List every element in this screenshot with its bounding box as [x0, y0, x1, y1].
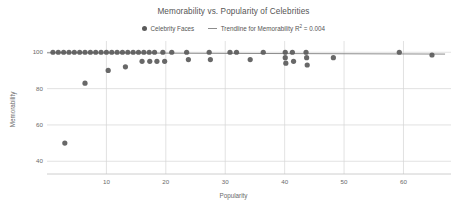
y-axis-tick-label: 80 — [21, 85, 43, 92]
data-point — [283, 55, 288, 60]
chart-container: Memorability vs. Popularity of Celebriti… — [0, 0, 467, 208]
data-point — [147, 50, 152, 55]
data-point — [136, 50, 141, 55]
plot-area — [0, 0, 467, 208]
data-point — [131, 50, 136, 55]
data-point — [147, 59, 152, 64]
y-axis-title: Memorability — [9, 75, 16, 145]
data-point — [56, 50, 61, 55]
data-point — [104, 50, 109, 55]
data-point — [106, 68, 111, 73]
data-point — [162, 59, 167, 64]
data-point — [429, 52, 434, 57]
data-point — [160, 50, 165, 55]
data-point — [62, 141, 67, 146]
data-point — [82, 81, 87, 86]
data-point — [397, 50, 402, 55]
data-point — [154, 59, 159, 64]
data-point — [88, 50, 93, 55]
x-axis-tick-label: 30 — [211, 178, 239, 185]
data-point — [93, 50, 98, 55]
data-point — [139, 59, 144, 64]
data-point — [303, 50, 308, 55]
data-point — [98, 50, 103, 55]
data-point — [152, 50, 157, 55]
data-point — [50, 50, 55, 55]
data-point — [120, 50, 125, 55]
data-point — [109, 50, 114, 55]
data-point — [77, 50, 82, 55]
data-point — [305, 62, 310, 67]
x-axis-title: Popularity — [0, 192, 467, 199]
data-point — [184, 50, 189, 55]
x-axis-tick-label: 60 — [389, 178, 417, 185]
data-point — [169, 50, 174, 55]
data-point — [207, 50, 212, 55]
data-point — [283, 50, 288, 55]
data-point — [248, 57, 253, 62]
data-point — [82, 50, 87, 55]
y-axis-tick-label: 40 — [21, 157, 43, 164]
data-point — [290, 50, 295, 55]
data-point — [61, 50, 66, 55]
x-axis-tick-label: 50 — [330, 178, 358, 185]
y-axis-tick-label: 60 — [21, 121, 43, 128]
data-point — [123, 64, 128, 69]
x-axis-tick-label: 10 — [92, 178, 120, 185]
data-point — [186, 57, 191, 62]
data-point — [291, 59, 296, 64]
x-axis-tick-label: 40 — [271, 178, 299, 185]
data-point — [72, 50, 77, 55]
data-point — [141, 50, 146, 55]
data-point — [304, 55, 309, 60]
data-point — [227, 50, 232, 55]
data-points — [50, 50, 434, 146]
x-axis-tick-label: 20 — [152, 178, 180, 185]
data-point — [261, 50, 266, 55]
data-point — [208, 57, 213, 62]
y-axis-tick-label: 100 — [21, 48, 43, 55]
data-point — [331, 55, 336, 60]
data-point — [234, 50, 239, 55]
data-point — [66, 50, 71, 55]
data-point — [283, 61, 288, 66]
data-point — [125, 50, 130, 55]
data-point — [115, 50, 120, 55]
